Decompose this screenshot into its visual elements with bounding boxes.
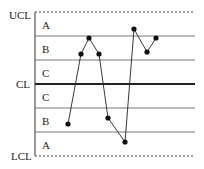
data-series-line (68, 29, 156, 142)
data-point (96, 51, 101, 56)
zone-label-a-top: A (42, 19, 50, 31)
data-point (105, 115, 110, 120)
data-points (65, 26, 158, 144)
data-point (144, 49, 149, 54)
data-point (131, 26, 136, 31)
zone-label-b-top: B (42, 43, 49, 55)
ucl-label: UCL (9, 9, 31, 21)
lcl-label: LCL (11, 150, 32, 162)
cl-label: CL (16, 78, 30, 90)
data-point (78, 51, 83, 56)
control-chart: UCL CL LCL A B C C B A (0, 0, 204, 169)
data-point (65, 121, 70, 126)
data-point (153, 35, 158, 40)
zone-label-b-bottom: B (42, 115, 49, 127)
data-point (122, 139, 127, 144)
zone-label-c-top: C (42, 67, 49, 79)
zone-label-a-bottom: A (42, 139, 50, 151)
zone-label-c-bottom: C (42, 91, 49, 103)
data-point (86, 35, 91, 40)
